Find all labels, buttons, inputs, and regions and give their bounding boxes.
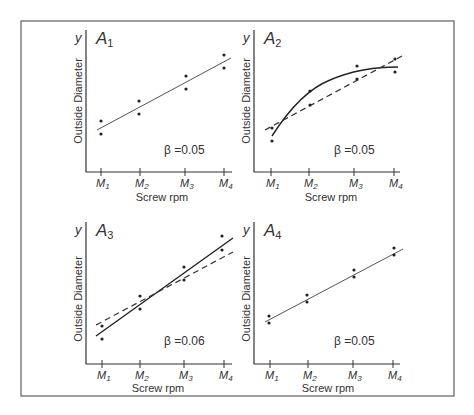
beta-annotation: β =0.06 — [164, 334, 205, 348]
axes — [254, 30, 400, 172]
y-symbol: y — [242, 30, 251, 45]
beta-annotation: β =0.05 — [334, 334, 375, 348]
tick-label-m3: M3 — [180, 177, 194, 191]
tick-label-m2: M2 — [135, 177, 149, 191]
tick-label-m1: M1 — [97, 369, 111, 383]
tick-label-m2: M2 — [135, 369, 149, 383]
data-points — [270, 57, 396, 142]
linear-fit-line — [265, 249, 403, 322]
panel-label: A4 — [263, 221, 281, 241]
tick-label-m2: M2 — [304, 177, 318, 191]
tick-label-m4: M4 — [388, 369, 402, 383]
linear-fit-line — [97, 58, 231, 130]
tick-label-m3: M3 — [179, 369, 193, 383]
beta-annotation: β =0.05 — [164, 143, 205, 157]
axes — [254, 222, 400, 364]
y-axis-label: Outside Diameter — [72, 256, 84, 342]
panel-label: A1 — [95, 29, 113, 49]
quadratic-fit-curve — [272, 67, 398, 136]
tick-label-m3: M3 — [348, 369, 362, 383]
panel-a3: M1 M2 M3 M4 Screw rpm Outside Diameter y… — [72, 221, 233, 394]
tick-label-m1: M1 — [266, 177, 280, 191]
y-symbol: y — [74, 30, 83, 45]
tick-label-m2: M2 — [303, 369, 317, 383]
axes — [86, 222, 232, 364]
x-axis-label: Screw rpm — [305, 191, 358, 203]
panel-label: A3 — [95, 221, 113, 241]
reference-dashed-line — [96, 252, 233, 325]
x-axis-label: Screw rpm — [302, 382, 355, 394]
y-symbol: y — [242, 222, 251, 237]
panel-a1: M1 M2 M3 M4 Screw rpm Outside Diameter y… — [72, 29, 233, 203]
data-points — [267, 246, 395, 324]
x-axis-label: Screw rpm — [136, 191, 189, 203]
tick-label-m4: M4 — [219, 369, 233, 383]
panel-a2: M1 M2 M3 M4 Screw rpm Outside Diameter y… — [240, 29, 403, 203]
panel-label: A2 — [263, 29, 281, 49]
figure: M1 M2 M3 M4 Screw rpm Outside Diameter y… — [0, 0, 474, 415]
axes — [86, 30, 232, 172]
x-axis-label: Screw rpm — [132, 382, 185, 394]
y-axis-label: Outside Diameter — [72, 58, 84, 144]
tick-label-m4: M4 — [219, 177, 233, 191]
linear-fit-dashed-line — [265, 56, 402, 130]
linear-fit-line — [96, 238, 233, 336]
y-axis-label: Outside Diameter — [240, 256, 252, 342]
panel-a4: M1 M2 M3 M4 Screw rpm Outside Diameter y… — [240, 221, 403, 394]
beta-annotation: β =0.05 — [334, 143, 375, 157]
tick-label-m4: M4 — [389, 177, 403, 191]
data-points — [100, 234, 223, 340]
tick-label-m1: M1 — [96, 177, 110, 191]
tick-label-m3: M3 — [349, 177, 363, 191]
y-axis-label: Outside Diameter — [240, 58, 252, 144]
y-symbol: y — [74, 222, 83, 237]
tick-label-m1: M1 — [265, 369, 279, 383]
